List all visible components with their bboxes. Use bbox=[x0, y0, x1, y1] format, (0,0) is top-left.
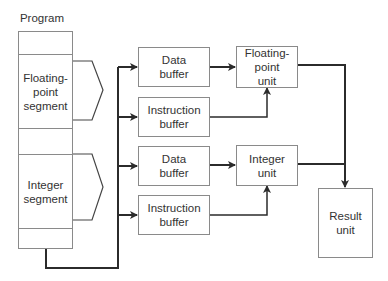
pipeline-diagram: Program Floating- point segment Integer … bbox=[0, 0, 388, 281]
int-segment-chevron bbox=[72, 154, 103, 220]
program-column: Floating- point segment Integer segment bbox=[18, 31, 73, 249]
result-unit: Result unit bbox=[318, 188, 373, 258]
program-segment-top bbox=[19, 32, 72, 54]
floating-point-unit: Floating- point unit bbox=[236, 46, 298, 88]
fp-program-segment: Floating- point segment bbox=[19, 54, 72, 128]
int-program-segment: Integer segment bbox=[19, 154, 72, 228]
fp-instruction-buffer: Instruction buffer bbox=[138, 97, 210, 137]
fp-segment-chevron bbox=[72, 61, 103, 120]
integer-unit: Integer unit bbox=[236, 145, 298, 186]
program-title: Program bbox=[14, 11, 70, 25]
program-segment-middle bbox=[19, 128, 72, 154]
fp-data-buffer: Data buffer bbox=[138, 47, 210, 87]
int-data-buffer: Data buffer bbox=[138, 146, 210, 186]
int-instruction-buffer: Instruction buffer bbox=[138, 195, 210, 235]
program-segment-bottom bbox=[19, 228, 72, 248]
